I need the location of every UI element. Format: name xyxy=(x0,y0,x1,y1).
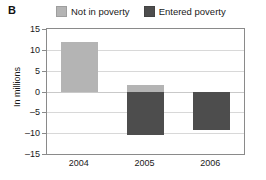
y-axis-tick-label: 10 xyxy=(30,45,40,55)
square-swatch-icon xyxy=(144,6,155,17)
legend-label-entered-poverty: Entered poverty xyxy=(159,6,226,17)
y-axis-tick-label: 5 xyxy=(35,66,40,76)
x-axis-tick-label: 2005 xyxy=(134,158,154,168)
panel-label: B xyxy=(8,4,16,16)
bar-2006-entered-poverty xyxy=(193,92,230,131)
x-axis-tick-label: 2006 xyxy=(200,158,220,168)
legend-label-not-in-poverty: Not in poverty xyxy=(71,6,130,17)
legend-item-entered-poverty: Entered poverty xyxy=(144,6,226,17)
x-axis-tick-label: 2004 xyxy=(69,158,89,168)
bar-2004-not-in-poverty xyxy=(61,42,98,92)
chart-legend: Not in poverty Entered poverty xyxy=(56,6,226,17)
legend-item-not-in-poverty: Not in poverty xyxy=(56,6,130,17)
y-axis-tick-label: –10 xyxy=(25,128,40,138)
y-axis-tick-label: –5 xyxy=(30,107,40,117)
square-swatch-icon xyxy=(56,6,67,17)
y-axis-tick-label: 15 xyxy=(30,24,40,34)
y-axis-tick-label: –15 xyxy=(25,149,40,159)
y-axis-tick-label: 0 xyxy=(35,87,40,97)
y-axis-tick-labels: 151050–5–10–15 xyxy=(0,28,42,155)
plot-area xyxy=(46,28,245,155)
bar-2005-entered-poverty xyxy=(127,92,164,136)
x-axis-tick-labels: 200420052006 xyxy=(46,158,245,174)
chart-figure: B Not in poverty Entered poverty In mill… xyxy=(0,0,266,180)
